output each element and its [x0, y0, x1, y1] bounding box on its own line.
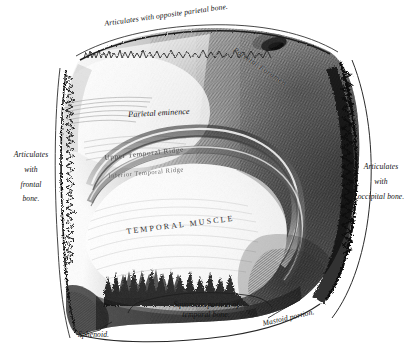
- parietal-bone-figure: [0, 0, 412, 344]
- label-occipital-line1: Articulates: [352, 160, 410, 175]
- label-occipital-line2: with: [352, 175, 410, 190]
- label-squamous-line2: temporal bone.: [146, 310, 266, 320]
- label-sphenoid: Sphenoid.: [78, 331, 109, 340]
- label-squamous-line1: Squamous portion of: [146, 300, 266, 310]
- label-frontal-line1: Articulates: [2, 148, 60, 163]
- label-squamous-portion: Squamous portion of temporal bone.: [146, 300, 266, 321]
- label-frontal-line4: bone.: [2, 192, 60, 207]
- label-frontal-line3: frontal: [2, 178, 60, 193]
- label-frontal-articulation: Articulates with frontal bone.: [2, 148, 60, 207]
- label-occipital-articulation: Articulates with occipital bone.: [352, 160, 410, 204]
- label-occipital-line3: occipital bone.: [352, 190, 410, 205]
- label-frontal-line2: with: [2, 163, 60, 178]
